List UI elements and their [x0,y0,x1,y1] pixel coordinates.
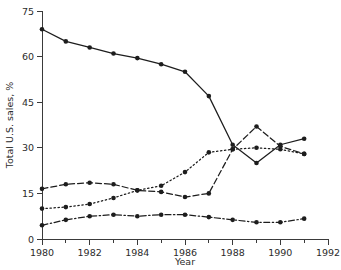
data-point-marker [87,180,92,185]
data-point-marker [230,142,235,147]
data-point-marker [183,195,188,200]
data-point-marker [302,152,307,157]
data-point-marker [64,205,69,210]
data-point-marker [254,161,259,166]
data-point-marker [111,196,116,201]
y-tick-label: 30 [22,142,34,153]
y-tick-label: 75 [22,6,34,17]
x-tick-label: 1990 [268,247,292,258]
axes [37,11,328,245]
data-point-marker [40,223,45,228]
data-point-marker [207,150,212,155]
data-point-marker [159,190,164,195]
data-point-marker [230,218,235,223]
data-point-marker [254,124,259,129]
series-lines [40,27,307,228]
series-dashed [40,124,307,199]
y-axis-title: Total U.S. sales, % [4,82,15,170]
data-point-marker [135,56,140,61]
data-point-marker [302,216,307,221]
data-point-marker [302,136,307,141]
line-chart-canvas: 015304560751980198219841986198819901992 … [0,0,341,270]
data-point-marker [111,212,116,217]
x-tick-label: 1984 [125,247,149,258]
data-point-marker [159,184,164,189]
x-axis-title: Year [174,256,195,267]
data-point-marker [87,45,92,50]
data-point-marker [183,212,188,217]
data-point-marker [64,182,69,187]
data-point-marker [135,188,140,193]
series-solid [40,27,307,165]
x-tick-label: 1982 [78,247,102,258]
data-point-marker [64,218,69,223]
y-tick-label: 45 [22,97,34,108]
data-point-marker [159,62,164,67]
data-point-marker [111,51,116,56]
y-tick-label: 15 [22,188,34,199]
data-point-marker [254,146,259,151]
data-point-marker [159,212,164,217]
data-point-marker [207,191,212,196]
series-line-dashed [42,127,304,198]
data-point-marker [111,182,116,187]
series-line-solid [42,29,304,163]
series-line-dash-dot [42,215,304,226]
series-dash-dot [40,212,307,227]
data-point-marker [183,170,188,175]
data-point-marker [40,206,45,211]
data-point-marker [278,147,283,152]
data-point-marker [278,220,283,225]
data-point-marker [254,220,259,225]
data-point-marker [135,214,140,219]
data-point-marker [64,39,69,44]
data-point-marker [183,70,188,75]
data-point-marker [230,147,235,152]
data-point-marker [207,215,212,220]
y-tick-label: 60 [22,51,34,62]
y-tick-label: 0 [28,234,34,245]
x-tick-label: 1980 [30,247,54,258]
x-tick-label: 1988 [221,247,245,258]
data-point-marker [40,187,45,192]
data-point-marker [87,202,92,207]
chart-figure: 015304560751980198219841986198819901992 … [0,0,341,270]
x-tick-label: 1992 [316,247,340,258]
data-point-marker [87,214,92,219]
data-point-marker [40,27,45,32]
data-point-marker [207,94,212,99]
